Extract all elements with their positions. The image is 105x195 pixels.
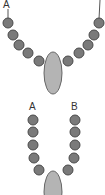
bead	[34, 165, 44, 175]
top-beads-left	[3, 18, 44, 66]
bead	[3, 18, 13, 28]
bead	[74, 48, 84, 58]
bead	[70, 127, 80, 137]
top-necklace: A	[3, 0, 104, 94]
bead	[83, 40, 93, 50]
bead	[89, 30, 99, 40]
bead	[28, 127, 38, 137]
bead	[70, 115, 80, 125]
top-string-right	[99, 0, 100, 19]
bottom-beads-left	[28, 115, 44, 175]
bead	[29, 153, 39, 163]
bead	[63, 165, 73, 175]
top-pendant	[44, 52, 62, 94]
bead	[34, 56, 44, 66]
bead	[28, 140, 38, 150]
bottom-beads-right	[63, 115, 80, 175]
bottom-label-b: B	[71, 101, 78, 112]
bead	[94, 18, 104, 28]
bead	[28, 115, 38, 125]
top-label-a: A	[3, 0, 10, 10]
bead	[69, 153, 79, 163]
bottom-pendant	[44, 171, 62, 195]
bead	[63, 56, 73, 66]
bottom-necklace: A B	[28, 101, 80, 195]
necklace-diagram: A A B	[0, 0, 105, 195]
bead	[14, 40, 24, 50]
bead	[70, 140, 80, 150]
bottom-label-a: A	[29, 101, 36, 112]
bead	[23, 48, 33, 58]
top-beads-right	[63, 18, 104, 66]
bead	[8, 30, 18, 40]
